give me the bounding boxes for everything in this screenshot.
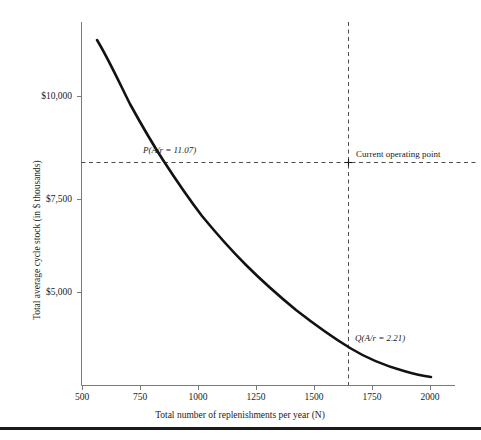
chart-figure: $10,000 $7,500 $5,000 500 750 1000 1250 … [0, 0, 481, 440]
y-tick-label-10000: $10,000 [22, 92, 72, 102]
y-axis-title: Total average cycle stock (in $ thousand… [33, 160, 43, 320]
plot-canvas [0, 0, 481, 440]
y-tick-label-5000: $5,000 [22, 288, 72, 298]
annotation-point-p: P(A/r = 11.07) [143, 146, 196, 155]
x-tick-label-750: 750 [120, 393, 160, 403]
y-tick-label-7500: $7,500 [22, 195, 72, 205]
x-axis-title: Total number of replenishments per year … [155, 411, 325, 421]
y-tick-marks [77, 97, 82, 293]
current-operating-point-marker [345, 159, 352, 166]
x-tick-marks [83, 386, 431, 391]
x-tick-label-500: 500 [62, 393, 102, 403]
x-tick-label-1750: 1750 [352, 393, 392, 403]
x-tick-label-1500: 1500 [294, 393, 334, 403]
exchange-curve [97, 40, 431, 377]
x-tick-label-1250: 1250 [236, 393, 276, 403]
x-tick-label-2000: 2000 [410, 393, 450, 403]
bottom-divider-rule [0, 427, 481, 430]
x-tick-label-1000: 1000 [178, 393, 218, 403]
annotation-current-operating-point: Current operating point [356, 150, 440, 159]
annotation-point-q: Q(A/r = 2.21) [355, 334, 405, 343]
